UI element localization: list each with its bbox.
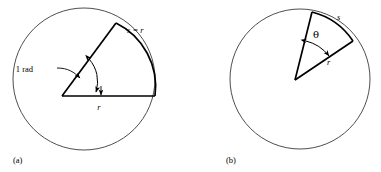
panel-caption-b: (b) [226,155,236,165]
angle-arrow-b [306,41,329,56]
angle-label-b: θ [313,29,319,40]
panel-b: θ s r (b) [226,9,370,165]
panel-caption-a: (a) [13,155,23,165]
figure-container: 1 rad s = r r (a) θ s r (b) [0,0,381,172]
radius-label-b: r [327,57,331,67]
radius-label-a: r [97,102,101,112]
circle-outline-b [230,9,370,149]
arc-label-b: s [337,12,341,22]
angle-arrow-a [89,59,98,92]
panel-a: 1 rad s = r r (a) [13,8,156,165]
radian-figure-svg: 1 rad s = r r (a) θ s r (b) [0,0,381,172]
angle-label-a: 1 rad [16,64,34,74]
arc-label-a: s = r [127,25,144,35]
